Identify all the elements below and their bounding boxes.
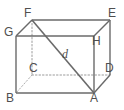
vertex-label-G: G xyxy=(4,26,13,38)
vertex-label-F: F xyxy=(24,7,31,19)
vertex-label-B: B xyxy=(6,92,14,104)
vertex-label-E: E xyxy=(108,7,116,19)
cuboid-figure: F E G H C D B A d xyxy=(0,0,124,110)
edge-C-B-hidden xyxy=(16,75,32,93)
vertex-label-A: A xyxy=(90,92,98,104)
vertex-label-H: H xyxy=(92,35,101,47)
edge-F-G xyxy=(16,20,32,36)
vertex-label-D: D xyxy=(105,62,114,74)
vertex-label-C: C xyxy=(29,62,38,74)
space-diagonal-label: d xyxy=(62,48,68,60)
